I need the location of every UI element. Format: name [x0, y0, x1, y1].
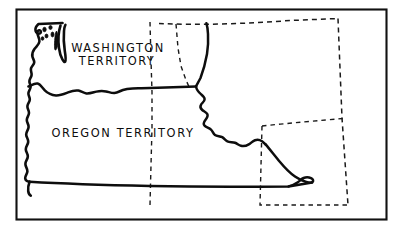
map-canvas: WASHINGTON TERRITORY OREGON TERRITORY	[0, 0, 400, 235]
island-dot-2	[49, 26, 52, 30]
island-dot-1	[43, 27, 46, 31]
washington-territory-label-line1: WASHINGTON	[71, 41, 164, 55]
island-dot-3	[45, 34, 48, 38]
island-dot-5	[41, 37, 44, 41]
oregon-territory-label: OREGON TERRITORY	[51, 126, 194, 140]
map-background	[0, 0, 400, 235]
island-dot-4	[51, 32, 54, 37]
washington-territory-label-line2: TERRITORY	[78, 54, 155, 68]
historical-map-figure: WASHINGTON TERRITORY OREGON TERRITORY	[0, 0, 400, 235]
